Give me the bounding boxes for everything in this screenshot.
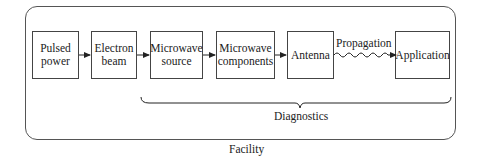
connectors-layer: [0, 0, 478, 159]
diagnostics-label: Diagnostics: [274, 110, 328, 122]
propagation-label: Propagation: [336, 37, 392, 49]
wavy-propagation-arrow: [334, 53, 396, 57]
diagnostics-brace: [141, 97, 451, 108]
facility-label: Facility: [229, 143, 264, 155]
